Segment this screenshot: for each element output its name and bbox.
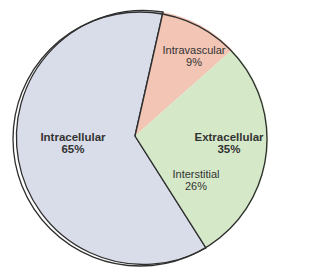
label-extracellular-name: Extracellular: [194, 131, 263, 143]
label-intracellular-pct: 65%: [40, 143, 105, 155]
label-intravascular-pct: 9%: [163, 56, 226, 68]
label-extracellular-pct: 35%: [194, 143, 263, 155]
label-intracellular-name: Intracellular: [40, 131, 105, 143]
label-intracellular: Intracellular 65%: [40, 131, 105, 155]
label-intravascular-name: Intravascular: [163, 44, 226, 56]
label-extracellular: Extracellular 35%: [194, 131, 263, 155]
label-interstitial-pct: 26%: [172, 180, 219, 192]
label-interstitial-name: Interstitial: [172, 168, 219, 180]
label-interstitial: Interstitial 26%: [172, 168, 219, 192]
label-intravascular: Intravascular 9%: [163, 44, 226, 68]
